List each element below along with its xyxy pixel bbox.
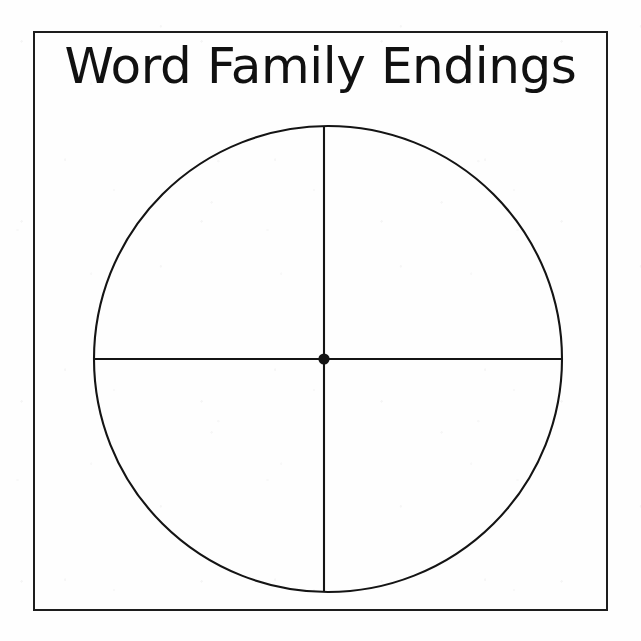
worksheet-page: Word Family Endings	[0, 0, 641, 641]
page-title: Word Family Endings	[33, 38, 608, 94]
wheel-center-dot-icon	[318, 353, 329, 364]
word-family-wheel[interactable]	[92, 125, 564, 595]
